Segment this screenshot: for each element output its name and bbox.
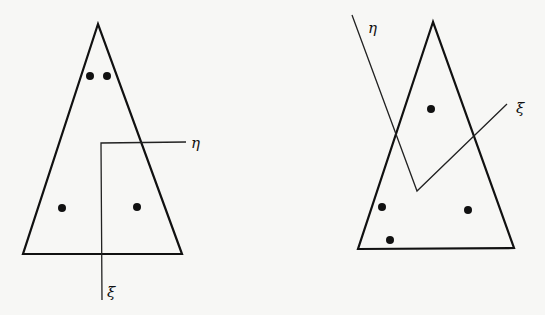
point-marker [378, 203, 386, 211]
diagram-canvas: η ξ η ξ [0, 0, 545, 315]
figure-left: η ξ [23, 24, 200, 301]
xi-label: ξ [107, 283, 116, 301]
axes-eta-xi [101, 142, 186, 300]
points-group [378, 105, 472, 244]
point-marker [427, 105, 435, 113]
point-marker [133, 203, 141, 211]
point-marker [464, 206, 472, 214]
point-marker [386, 236, 394, 244]
triangle [23, 24, 182, 254]
point-marker [103, 72, 111, 80]
point-marker [58, 204, 66, 212]
eta-label: η [191, 134, 200, 152]
triangle [358, 22, 514, 249]
xi-label: ξ [516, 99, 525, 117]
points-group [58, 72, 141, 212]
eta-label: η [368, 19, 377, 37]
point-marker [86, 72, 94, 80]
figure-right: η ξ [352, 15, 525, 249]
